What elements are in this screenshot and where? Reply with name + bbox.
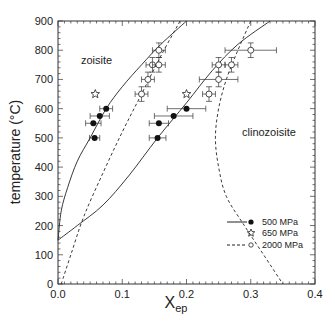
filled-circle-marker-icon [155, 135, 161, 141]
legend-label-2000: 2000 MPa [262, 240, 303, 250]
data-point [149, 135, 166, 141]
data-point [152, 43, 165, 58]
x-tick-label: 0.3 [243, 288, 258, 300]
y-tick-label: 500 [35, 132, 53, 144]
y-tick-labels: 0100200300400500600700800900 [35, 15, 53, 290]
data-point [149, 120, 168, 126]
legend-open-circle-icon [249, 243, 253, 247]
data-point [167, 106, 206, 112]
data-point [182, 90, 191, 98]
data-point [90, 113, 109, 119]
filled-circle-marker-icon [92, 135, 98, 141]
x-tick-label: 0.2 [179, 288, 194, 300]
filled-circle-marker-icon [103, 106, 109, 112]
legend: 500 MPa 650 MPa 2000 MPa [227, 217, 303, 250]
data-point [152, 58, 165, 73]
open-circle-marker-icon [216, 76, 222, 82]
legend-star-icon [247, 229, 255, 236]
data-point [91, 90, 100, 98]
phase-boundary-curve [58, 21, 187, 240]
open-circle-marker-icon [156, 62, 162, 68]
region-label-zoisite: zoisite [81, 54, 112, 66]
data-point [225, 58, 238, 73]
y-tick-label: 0 [47, 278, 53, 290]
y-tick-label: 600 [35, 103, 53, 115]
open-circle-marker-icon [248, 47, 254, 53]
filled-circle-marker-icon [171, 113, 177, 119]
filled-circle-marker-icon [90, 120, 96, 126]
data-point [212, 58, 225, 73]
open-circle-marker-icon [139, 91, 145, 97]
legend-filled-circle-icon [248, 219, 253, 224]
y-tick-label: 700 [35, 73, 53, 85]
open-circle-marker-icon [216, 62, 222, 68]
y-tick-label: 400 [35, 161, 53, 173]
x-tick-labels: 0.00.10.20.30.4 [50, 288, 322, 300]
data-point [154, 113, 193, 119]
y-tick-label: 800 [35, 44, 53, 56]
data-point [142, 72, 155, 87]
y-tick-label: 100 [35, 249, 53, 261]
data-point [199, 72, 238, 87]
y-tick-label: 300 [35, 190, 53, 202]
filled-circle-marker-icon [156, 120, 162, 126]
open-circle-marker-icon [145, 76, 151, 82]
star-marker-icon [91, 90, 100, 98]
star-marker-icon [182, 90, 191, 98]
data-point [203, 87, 216, 102]
legend-label-650: 650 MPa [262, 228, 298, 238]
y-axis-title: temperature (°C) [7, 100, 23, 204]
y-tick-label: 900 [35, 15, 53, 27]
open-circle-marker-icon [206, 91, 212, 97]
y-tick-label: 200 [35, 220, 53, 232]
x-tick-label: 0.1 [115, 288, 130, 300]
filled-circle-marker-icon [97, 113, 103, 119]
filled-circle-marker-icon [184, 106, 190, 112]
open-circle-marker-icon [228, 62, 234, 68]
x-tick-label: 0.4 [307, 288, 322, 300]
region-label-clinozoisite: clinozoisite [242, 126, 296, 138]
data-point [225, 43, 276, 58]
phase-diagram-chart: 0.00.10.20.30.4 010020030040050060070080… [0, 0, 335, 328]
data-point [135, 87, 148, 102]
data-point [100, 106, 113, 112]
legend-label-500: 500 MPa [262, 217, 298, 227]
phase-boundary-curve [61, 21, 180, 284]
open-circle-marker-icon [156, 47, 162, 53]
